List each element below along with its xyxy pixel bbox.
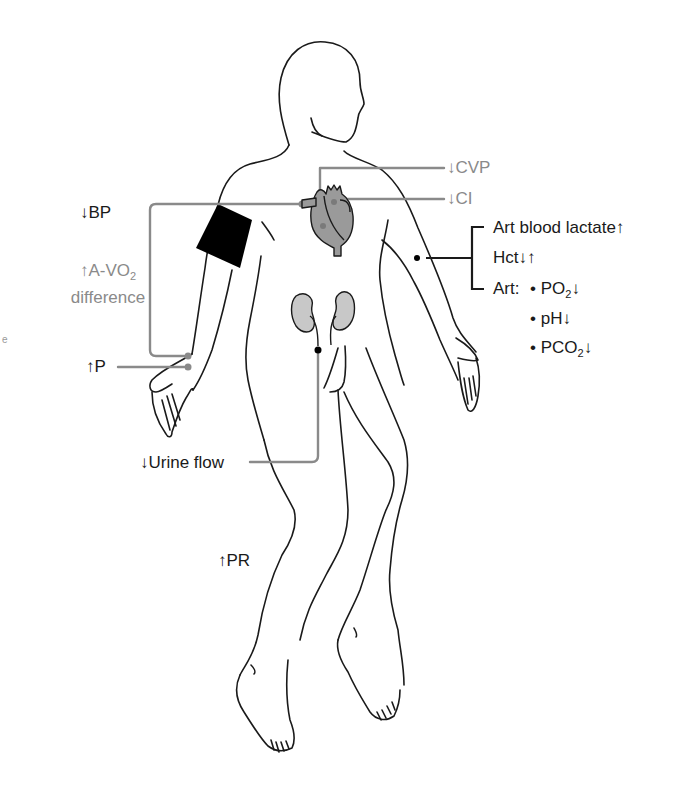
torso-right <box>380 220 404 385</box>
bp-cuff-icon <box>196 204 252 268</box>
ph-item: • pH↓ <box>530 309 571 329</box>
pr-label: ↑PR <box>218 551 250 571</box>
pco2-text: PCO <box>541 338 578 357</box>
bullet: • <box>530 279 536 298</box>
po2-text: PO <box>541 279 566 298</box>
lactate-label: Art blood lactate↑ <box>493 218 624 238</box>
blood-panel-bracket <box>426 227 484 289</box>
bullet: • <box>530 309 536 328</box>
head-outline <box>279 42 364 145</box>
avo2-difference-label: ↑A-VO2 difference <box>63 260 153 308</box>
bp-label: ↓BP <box>80 203 111 223</box>
body-diagram <box>0 0 694 787</box>
right-shoulder-arm-outer <box>344 151 476 352</box>
down-arrow-icon: ↓ <box>562 309 571 328</box>
ci-label: ↓CI <box>447 189 473 209</box>
bullet: • <box>530 338 536 357</box>
difference-text: difference <box>63 287 153 308</box>
urine-flow-label: ↓Urine flow <box>140 453 224 473</box>
urine-leader <box>250 352 318 462</box>
avo2-text: ↑A-VO <box>80 261 130 280</box>
pulse-marker-icon <box>185 364 192 371</box>
avo2-subscript: 2 <box>130 270 136 282</box>
art-label: Art: <box>493 279 519 299</box>
hct-label: Hct↓↑ <box>493 248 536 268</box>
heart-icon <box>302 185 353 256</box>
edge-fragment-text: e <box>2 330 8 350</box>
pco2-item: • PCO2↓ <box>530 338 592 363</box>
right-leg-outer <box>338 392 394 640</box>
down-arrow-icon: ↓ <box>571 279 580 298</box>
bladder-marker-icon <box>315 347 322 354</box>
ph-text: pH <box>541 309 563 328</box>
cvp-label: ↓CVP <box>447 158 490 178</box>
wrist-marker-icon <box>185 353 192 360</box>
p-label: ↑P <box>86 357 106 377</box>
torso-left <box>246 256 264 440</box>
kidneys-icon <box>292 292 355 346</box>
body-outline <box>150 42 479 752</box>
arm-marker-icon <box>414 255 420 261</box>
down-arrow-icon: ↓ <box>584 338 593 357</box>
po2-item: • PO2↓ <box>530 279 580 304</box>
